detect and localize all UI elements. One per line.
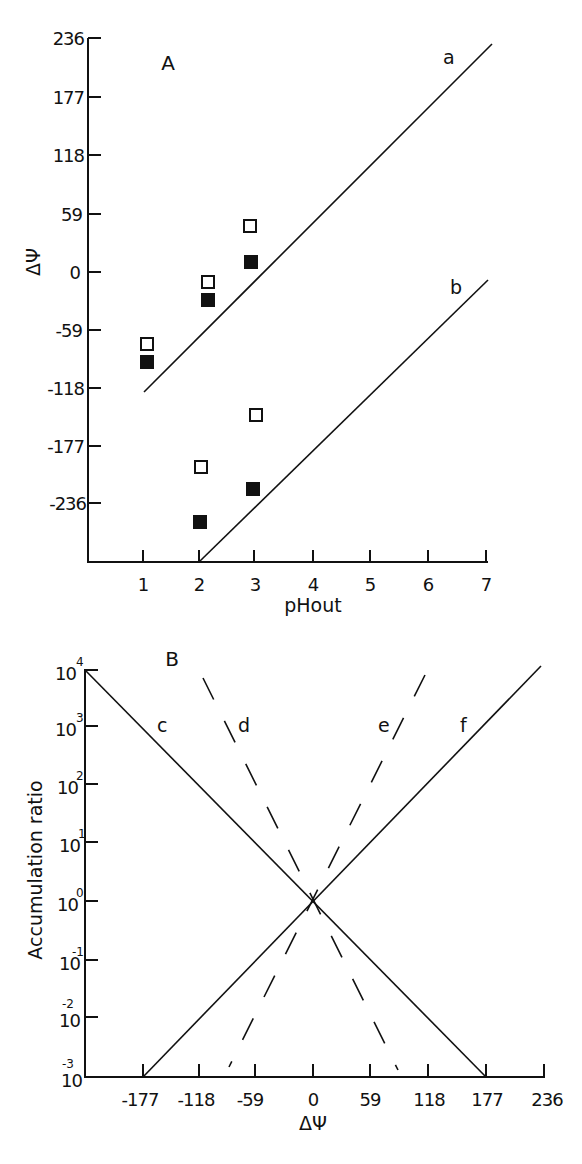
- ytick-label: 10 -2: [59, 997, 80, 1031]
- filled-square-marker: [244, 255, 258, 269]
- svg-text:10: 10: [59, 1010, 80, 1031]
- panel-a: 236 177 118 59 0 -59 -118 -177 -236 1 2 …: [22, 28, 492, 616]
- line-d-dashed: [203, 678, 398, 1070]
- ytick-label: 10 3: [55, 711, 84, 740]
- svg-text:3: 3: [76, 711, 84, 725]
- panel-a-y-ticks: [88, 38, 101, 503]
- open-square-marker: [195, 461, 207, 473]
- xtick-label: 3: [250, 574, 261, 595]
- xtick-label: -59: [237, 1089, 264, 1110]
- xtick-label: 4: [308, 574, 319, 595]
- svg-text:10: 10: [55, 663, 76, 684]
- panel-b-title: B: [165, 647, 179, 671]
- svg-text:-2: -2: [62, 997, 74, 1011]
- ytick-label: 10 1: [59, 827, 86, 856]
- ytick-label: 0: [70, 262, 81, 283]
- xtick-label: 118: [413, 1089, 445, 1110]
- ytick-label: -236: [49, 493, 86, 514]
- xtick-label: 1: [138, 574, 148, 595]
- ytick-label: -177: [47, 436, 84, 457]
- svg-text:2: 2: [76, 769, 84, 783]
- panel-b-y-ticks: [85, 670, 98, 1017]
- panel-b-y-tick-labels: 10 4 10 3 10 2 10 1 10 0 10 -1: [55, 655, 86, 1091]
- line-e-dashed: [229, 675, 425, 1067]
- line-f-label: f: [460, 714, 468, 736]
- panel-a-y-tick-labels: 236 177 118 59 0 -59 -118 -177 -236: [47, 28, 86, 514]
- panel-b: 10 4 10 3 10 2 10 1 10 0 10 -1: [24, 647, 563, 1134]
- svg-text:1: 1: [78, 827, 86, 841]
- filled-square-marker: [201, 293, 215, 307]
- panel-a-title: A: [161, 51, 175, 75]
- line-f: [143, 666, 541, 1077]
- filled-square-marker: [246, 482, 260, 496]
- svg-text:-3: -3: [62, 1057, 74, 1071]
- svg-text:10: 10: [55, 719, 76, 740]
- xtick-label: 2: [194, 574, 204, 595]
- open-square-marker: [141, 338, 153, 350]
- line-c-label: c: [157, 714, 167, 736]
- ytick-label: 10 -3: [61, 1057, 82, 1091]
- line-a-label: a: [443, 46, 455, 68]
- panel-a-x-ticks: [143, 550, 486, 562]
- svg-text:4: 4: [76, 655, 84, 669]
- line-a: [144, 44, 492, 392]
- ytick-label: 10 2: [57, 769, 84, 798]
- svg-text:0: 0: [76, 886, 84, 900]
- line-e-label: e: [378, 714, 390, 736]
- panel-a-x-tick-labels: 1 2 3 4 5 6 7: [138, 574, 491, 595]
- xtick-label: 177: [471, 1089, 502, 1110]
- panel-a-x-label: pHout: [284, 594, 341, 616]
- filled-square-marker: [140, 355, 154, 369]
- ytick-label: 118: [53, 145, 85, 166]
- line-b-label: b: [450, 276, 462, 298]
- xtick-label: 59: [360, 1089, 381, 1110]
- ytick-label: -118: [47, 378, 84, 399]
- panel-b-x-tick-labels: -177 -118 -59 0 59 118 177 236: [122, 1089, 564, 1110]
- xtick-label: -118: [178, 1089, 215, 1110]
- ytick-label: 10 -1: [59, 945, 84, 974]
- ytick-label: 59: [61, 204, 82, 225]
- line-b: [200, 280, 488, 561]
- open-square-marker: [202, 276, 214, 288]
- panel-b-y-label: Accumulation ratio: [24, 780, 46, 959]
- line-c: [85, 670, 486, 1077]
- xtick-label: 0: [308, 1089, 319, 1110]
- xtick-label: 5: [365, 574, 375, 595]
- xtick-label: 7: [481, 574, 491, 595]
- xtick-label: -177: [122, 1089, 159, 1110]
- open-square-marker: [244, 220, 256, 232]
- ytick-label: 10 4: [55, 655, 84, 684]
- figure: 236 177 118 59 0 -59 -118 -177 -236 1 2 …: [0, 0, 582, 1164]
- svg-text:-1: -1: [72, 945, 84, 959]
- open-square-series: [141, 220, 262, 473]
- panel-b-x-label: ΔΨ: [299, 1112, 327, 1134]
- panel-a-y-label: ΔΨ: [22, 248, 44, 276]
- open-square-marker: [250, 409, 262, 421]
- filled-square-marker: [193, 515, 207, 529]
- ytick-label: 10 0: [57, 886, 84, 915]
- line-d-label: d: [238, 714, 250, 736]
- xtick-label: 236: [531, 1089, 563, 1110]
- ytick-label: 236: [53, 28, 85, 49]
- filled-square-series: [140, 255, 260, 529]
- svg-text:10: 10: [61, 1070, 82, 1091]
- ytick-label: 177: [53, 87, 84, 108]
- xtick-label: 6: [423, 574, 434, 595]
- ytick-label: -59: [56, 320, 83, 341]
